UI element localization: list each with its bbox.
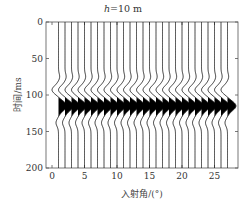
y-tick-label: 100 [26, 90, 43, 100]
seismic-wiggle-chart: h=10 m 0501001502000510152025 时间/ms 入射角/… [0, 0, 246, 203]
y-axis-label: 时间/ms [11, 70, 24, 120]
y-tick-label: 150 [26, 127, 43, 137]
plot-area: 0501001502000510152025 [0, 0, 246, 203]
x-tick-label: 20 [176, 171, 188, 181]
x-tick-label: 10 [111, 171, 123, 181]
chart-title: h=10 m [0, 3, 246, 14]
y-tick-label: 0 [37, 17, 43, 27]
seismic-trace [221, 22, 236, 168]
x-tick-label: 25 [209, 171, 221, 181]
plot-frame [46, 22, 238, 168]
x-tick-label: 15 [144, 171, 156, 181]
y-tick-label: 200 [26, 163, 43, 173]
x-axis-label: 入射角/(°) [46, 187, 238, 200]
y-tick-label: 50 [32, 54, 44, 64]
title-value: =10 m [110, 3, 142, 14]
x-tick-label: 0 [49, 171, 55, 181]
x-tick-label: 5 [82, 171, 88, 181]
